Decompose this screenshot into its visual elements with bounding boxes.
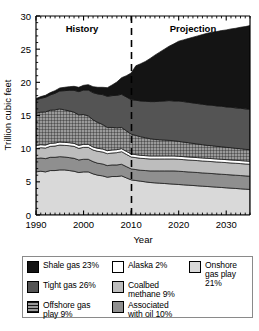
legend-label: Offshore gas play 9% <box>43 300 90 319</box>
legend-swatch <box>112 301 124 313</box>
legend-label: Onshore gas play 21% <box>205 260 253 288</box>
x-tick-label: 2020 <box>168 219 189 230</box>
legend-swatch <box>189 261 201 273</box>
legend-label: Alaska 2% <box>128 260 167 270</box>
legend-label: Shale gas 23% <box>43 260 99 270</box>
legend-column-3: Onshore gas play 21% <box>189 260 253 280</box>
legend-swatch <box>27 301 39 313</box>
legend-swatch <box>112 281 124 293</box>
history-annotation: History <box>66 23 99 34</box>
x-axis-label: Year <box>133 234 152 245</box>
x-tick-label: 2010 <box>121 219 142 230</box>
y-tick-label: 5 <box>26 176 31 187</box>
x-tick-label: 2030 <box>216 219 237 230</box>
y-tick-label: 10 <box>20 143 31 154</box>
legend-label: Tight gas 26% <box>43 280 96 290</box>
figure-container: 05101520253019902000201020202030 Trillio… <box>0 0 259 331</box>
x-tick-label: 2000 <box>73 219 94 230</box>
legend-item[interactable]: Associated with oil 10% <box>112 300 188 318</box>
legend-column-1: Shale gas 23%Tight gas 26%Offshore gas p… <box>27 260 111 320</box>
legend-swatch <box>27 281 39 293</box>
legend-item[interactable]: Offshore gas play 9% <box>27 300 111 318</box>
y-axis-label: Trillion cubic feet <box>2 79 13 150</box>
legend: Shale gas 23%Tight gas 26%Offshore gas p… <box>22 256 253 318</box>
legend-item[interactable]: Coalbed methane 9% <box>112 280 188 298</box>
y-tick-label: 30 <box>20 11 31 22</box>
projection-annotation: Projection <box>170 23 217 34</box>
y-tick-label: 20 <box>20 77 31 88</box>
legend-swatch <box>112 261 124 273</box>
legend-label: Associated with oil 10% <box>128 300 172 319</box>
legend-item[interactable]: Onshore gas play 21% <box>189 260 253 278</box>
y-tick-label: 25 <box>20 44 31 55</box>
legend-item[interactable]: Alaska 2% <box>112 260 188 278</box>
legend-label: Coalbed methane 9% <box>128 280 175 299</box>
y-tick-label: 15 <box>20 110 31 121</box>
x-tick-label: 1990 <box>25 219 46 230</box>
legend-column-2: Alaska 2%Coalbed methane 9%Associated wi… <box>112 260 188 320</box>
legend-item[interactable]: Tight gas 26% <box>27 280 111 298</box>
legend-item[interactable]: Shale gas 23% <box>27 260 111 278</box>
legend-swatch <box>27 261 39 273</box>
